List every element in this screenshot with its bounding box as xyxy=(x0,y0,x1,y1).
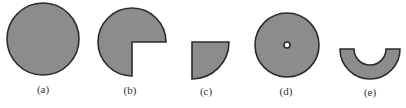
panel-label-b: (b) xyxy=(124,84,137,97)
panel-label-e: (e) xyxy=(364,86,377,99)
full-circle-shape xyxy=(7,3,79,75)
panel-label-a: (a) xyxy=(37,83,50,96)
panel-c: (c) xyxy=(192,42,229,98)
three-quarter-circle-shape xyxy=(98,8,166,76)
panel-b: (b) xyxy=(98,8,166,97)
annulus-shape xyxy=(255,13,319,77)
half-annulus-shape xyxy=(340,49,400,79)
panel-e: (e) xyxy=(340,49,400,99)
quarter-circle-shape xyxy=(192,42,229,79)
panel-a: (a) xyxy=(7,3,79,96)
panel-label-c: (c) xyxy=(200,85,213,98)
panel-d: (d) xyxy=(255,13,319,98)
shapes-figure: (a) (b) (c) (d) (e) xyxy=(0,0,406,108)
panel-label-d: (d) xyxy=(280,85,293,98)
